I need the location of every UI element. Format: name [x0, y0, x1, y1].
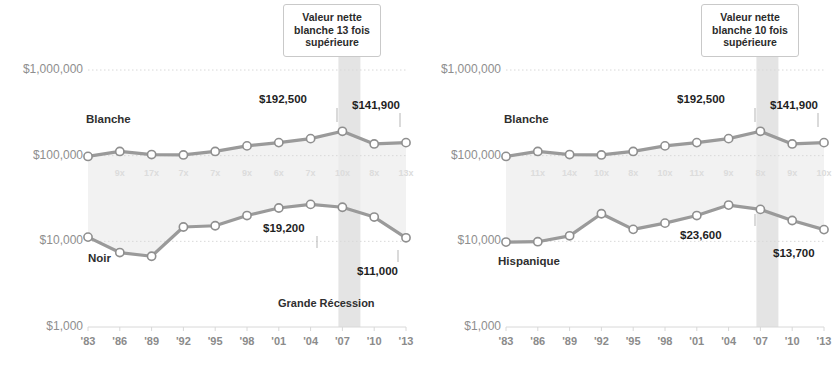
x-axis-tick-label: '92 — [594, 335, 609, 347]
annotation-line: Valeur nette — [707, 11, 793, 24]
ratio-multiplier-label: 17x — [144, 168, 159, 178]
annotation-line: supérieure — [289, 36, 375, 49]
chart-panel-white-vs-black: $1,000$10,000$100,000$1,000,000'83'86'89… — [0, 0, 418, 365]
ratio-multiplier-label: 7x — [178, 168, 188, 178]
y-axis-tick-label: $1,000 — [464, 319, 501, 333]
x-axis-tick-label: '86 — [112, 335, 127, 347]
y-axis-tick-label: $100,000 — [451, 148, 501, 162]
x-axis-tick-label: '98 — [240, 335, 255, 347]
series-legend-hispanique: Hispanique — [498, 255, 560, 267]
value-label: $192,500 — [259, 93, 307, 105]
x-axis-tick-label: '83 — [499, 335, 514, 347]
y-axis-tick-label: $10,000 — [458, 233, 501, 247]
series-legend-blanche: Blanche — [86, 113, 131, 125]
x-axis-tick-label: '95 — [208, 335, 223, 347]
value-label: $141,900 — [770, 99, 818, 111]
y-axis-tick-label: $10,000 — [40, 233, 83, 247]
x-axis-tick-label: '89 — [562, 335, 577, 347]
value-label: $141,900 — [352, 99, 400, 111]
x-axis-tick-label: '04 — [303, 335, 318, 347]
two-panel-net-worth-chart: $1,000$10,000$100,000$1,000,000'83'86'89… — [0, 0, 836, 365]
x-axis-tick-label: '01 — [689, 335, 704, 347]
value-label: $11,000 — [357, 265, 398, 277]
annotation-callout: Valeur netteblanche 13 foissupérieure — [283, 4, 381, 57]
annotation-line: blanche 13 fois — [289, 24, 375, 37]
x-axis-tick-label: '01 — [271, 335, 286, 347]
value-label: $19,200 — [263, 222, 305, 234]
y-axis-tick-label: $100,000 — [33, 148, 83, 162]
x-axis-tick-label: '04 — [721, 335, 736, 347]
value-label: $192,500 — [677, 93, 725, 105]
ratio-multiplier-label: 8x — [628, 168, 638, 178]
x-axis-tick-label: '07 — [753, 335, 768, 347]
ratio-multiplier-label: 7x — [306, 168, 316, 178]
ratio-multiplier-label: 11x — [690, 168, 705, 178]
x-axis-tick-label: '89 — [144, 335, 159, 347]
x-axis-tick-label: '07 — [335, 335, 350, 347]
value-label: $13,700 — [773, 247, 815, 259]
recession-band-label: Grande Récession — [278, 297, 375, 309]
annotation-line: blanche 10 fois — [707, 24, 793, 37]
ratio-multiplier-label: 9x — [787, 168, 797, 178]
y-axis-tick-label: $1,000 — [46, 319, 83, 333]
y-axis-tick-label: $1,000,000 — [23, 62, 83, 76]
ratio-multiplier-label: 9x — [115, 168, 125, 178]
ratio-multiplier-label: 8x — [369, 168, 379, 178]
ratio-multiplier-label: 13x — [398, 168, 413, 178]
ratio-multiplier-label: 7x — [210, 168, 220, 178]
ratio-multiplier-label: 9x — [724, 168, 734, 178]
x-axis-tick-label: '98 — [658, 335, 673, 347]
y-axis-tick-label: $1,000,000 — [441, 62, 501, 76]
x-axis-tick-label: '95 — [626, 335, 641, 347]
x-axis-tick-label: '13 — [817, 335, 832, 347]
ratio-multiplier-label: 10x — [594, 168, 609, 178]
series-legend-blanche: Blanche — [504, 113, 549, 125]
x-axis-tick-label: '83 — [81, 335, 96, 347]
x-axis-tick-label: '86 — [530, 335, 545, 347]
ratio-multiplier-label: 11x — [531, 168, 546, 178]
chart-panel-white-vs-hispanic: $1,000$10,000$100,000$1,000,000'83'86'89… — [418, 0, 836, 365]
x-axis-tick-label: '10 — [785, 335, 800, 347]
annotation-callout: Valeur netteblanche 10 foissupérieure — [701, 4, 799, 57]
ratio-multiplier-label: 10x — [657, 168, 672, 178]
x-axis-tick-label: '13 — [399, 335, 414, 347]
x-axis-tick-label: '10 — [367, 335, 382, 347]
x-axis-tick-label: '92 — [176, 335, 191, 347]
ratio-multiplier-label: 10x — [816, 168, 831, 178]
ratio-multiplier-label: 10x — [335, 168, 350, 178]
ratio-multiplier-label: 8x — [755, 168, 765, 178]
value-label: $23,600 — [680, 229, 722, 241]
annotation-line: Valeur nette — [289, 11, 375, 24]
annotation-line: supérieure — [707, 36, 793, 49]
ratio-multiplier-label: 6x — [274, 168, 284, 178]
series-legend-noir: Noir — [88, 252, 111, 264]
ratio-multiplier-label: 9x — [242, 168, 252, 178]
ratio-multiplier-label: 14x — [562, 168, 577, 178]
